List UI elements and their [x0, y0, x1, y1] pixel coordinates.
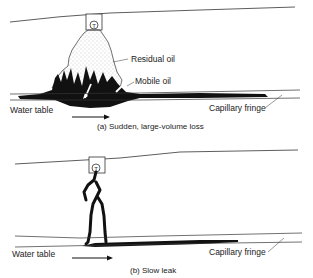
label-mobile-oil: Mobile oil [135, 77, 171, 86]
caption-panel-a: (a) Sudden, large-volume loss [97, 123, 204, 131]
caption-panel-b: (b) Slow leak [130, 267, 176, 275]
panel-b-diagram: T [15, 150, 302, 261]
slow-leak-path [84, 172, 106, 244]
label-capillary-fringe-b: Capillary fringe [209, 248, 266, 257]
diagram-canvas: T T [0, 0, 313, 278]
label-capillary-fringe: Capillary fringe [209, 104, 266, 113]
label-residual-oil: Residual oil [131, 55, 175, 64]
ground-surface-line [10, 7, 295, 22]
label-water-table: Water table [10, 106, 53, 115]
svg-text:T: T [92, 23, 96, 29]
capillary-fringe-top-line-b [15, 233, 302, 238]
label-water-table-b: Water table [12, 250, 55, 259]
ground-surface-line-b [15, 150, 298, 164]
mobile-oil-zone [18, 66, 268, 108]
